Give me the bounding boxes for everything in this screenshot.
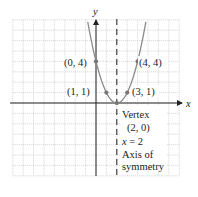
- axis-equation: x = 2: [121, 136, 143, 147]
- label-point-1-1: (1, 1): [67, 86, 90, 98]
- x-axis-label: x: [185, 98, 191, 109]
- vertex-coords: (2, 0): [127, 122, 150, 134]
- label-point-4-4: (4, 4): [139, 57, 162, 69]
- axis-label-line2: symmetry: [122, 161, 165, 172]
- vertex-title: Vertex: [122, 109, 150, 120]
- data-point: [125, 91, 129, 95]
- parabola-chart: x y (0, 4) (4, 4) (1, 1) (3, 1) Vertex (…: [0, 0, 198, 197]
- y-axis-label: y: [92, 6, 98, 17]
- data-point: [104, 91, 108, 95]
- axis-label-line1: Axis of: [122, 149, 154, 160]
- data-point: [94, 59, 98, 63]
- label-point-3-1: (3, 1): [132, 86, 155, 98]
- data-point: [115, 101, 119, 105]
- label-point-0-4: (0, 4): [64, 57, 87, 69]
